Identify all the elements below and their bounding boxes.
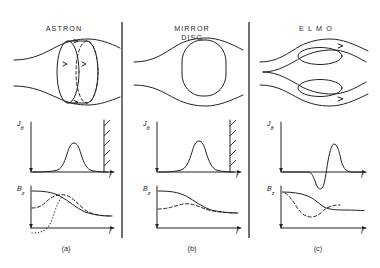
mirrordisc-field-plot <box>157 186 241 228</box>
elmo-top-diagram <box>260 39 368 106</box>
mirrordisc-jtheta-label: Jθ <box>143 112 149 131</box>
mirrordisc-hatched-disc <box>182 40 226 96</box>
elmo-jtheta-curve <box>283 144 363 189</box>
astron-field-line-upper <box>14 39 120 60</box>
elmo-arrow-lower <box>338 97 343 101</box>
elmo-jtheta-label-sub: θ <box>271 125 274 131</box>
elmo-bz-label-sub: z <box>272 190 275 196</box>
column-title-elmo: E L M O <box>266 24 366 33</box>
elmo-jtheta-xlabel: r <box>361 172 363 179</box>
astron-jtheta-xlabel: r <box>109 172 111 179</box>
elmo-field-plot <box>281 186 366 228</box>
astron-current-plot <box>31 120 114 172</box>
column-title-astron: ASTRON <box>14 24 114 33</box>
astron-field-line-lower <box>14 86 120 105</box>
elmo-current-plot <box>281 122 366 189</box>
elmo-field-line-lower <box>260 85 368 106</box>
astron-jtheta-curve <box>33 143 108 172</box>
column-title-mirror-disc: MIRROR DISC <box>140 24 244 42</box>
astron-current-arrow-2 <box>82 62 86 66</box>
elmo-field-line-upper <box>260 39 368 62</box>
mirrordisc-bz-label: Bz <box>143 177 150 196</box>
astron-bz-dashed <box>32 195 110 216</box>
mirrordisc-field-line-lower <box>134 85 243 106</box>
astron-bz-label-sub: z <box>22 190 25 196</box>
mirrordisc-bz-label-sub: z <box>148 190 151 196</box>
astron-bz-xlabel: r <box>109 228 111 235</box>
mirrordisc-top-diagram <box>134 38 243 106</box>
panel-caption-c: (c) <box>278 244 358 253</box>
panel-caption-a: (a) <box>26 244 106 253</box>
figure-root: ASTRON MIRROR DISC E L M O Jθ Jθ Jθ Bz B… <box>0 0 380 268</box>
astron-wall <box>104 120 110 172</box>
panel-caption-b: (b) <box>152 244 232 253</box>
mirrordisc-bz-solid <box>158 191 238 213</box>
elmo-bz-label: Bz <box>267 177 274 196</box>
elmo-inner-line-upper <box>263 50 366 72</box>
column-title-mirror-disc-line1: MIRROR <box>140 24 244 33</box>
mirrordisc-jtheta-xlabel: r <box>236 172 238 179</box>
elmo-bz-solid <box>282 192 364 211</box>
elmo-arrow-upper <box>338 44 343 48</box>
mirrordisc-jtheta-curve <box>159 141 234 172</box>
elmo-bz-dashed <box>285 193 340 217</box>
astron-current-arrow-1 <box>63 62 67 66</box>
astron-jtheta-label-sub: θ <box>21 125 24 131</box>
elmo-inner-line-lower <box>263 72 366 94</box>
column-title-mirror-disc-line2: DISC <box>140 33 244 42</box>
mirrordisc-bz-dashed <box>158 204 236 213</box>
astron-rear-ring-front-edge <box>87 41 98 103</box>
elmo-jtheta-label: Jθ <box>267 112 273 131</box>
mirrordisc-jtheta-label-sub: θ <box>147 125 150 131</box>
elmo-bz-xlabel: r <box>361 228 363 235</box>
astron-bz-label: Bz <box>17 177 24 196</box>
astron-jtheta-label: Jθ <box>17 112 23 131</box>
astron-field-plot <box>31 186 114 233</box>
mirrordisc-current-plot <box>157 120 241 172</box>
mirrordisc-bz-xlabel: r <box>236 228 238 235</box>
mirrordisc-wall <box>230 120 236 172</box>
astron-top-diagram <box>14 39 120 105</box>
